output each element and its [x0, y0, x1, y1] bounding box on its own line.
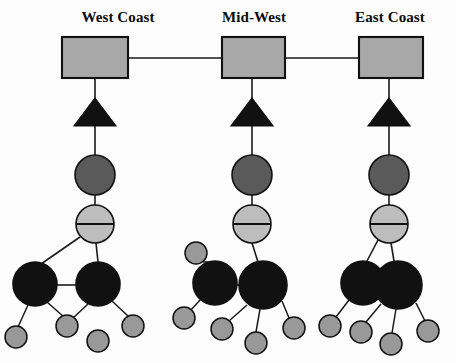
server-node-east-coast-2[interactable]: [374, 261, 422, 309]
workstation-node-mid-west-5[interactable]: [283, 317, 305, 339]
link-hub-to-server-mid-1: [252, 243, 258, 262]
site-group-west-coast[interactable]: West Coast: [5, 9, 155, 352]
link-server-to-workstation-west-1: [18, 305, 28, 327]
link-server-to-workstation-west-4: [112, 301, 129, 317]
workstation-node-east-coast-1[interactable]: [319, 315, 341, 337]
site-box-east-coast[interactable]: [359, 37, 423, 78]
server-node-west-coast-1[interactable]: [13, 262, 57, 306]
site-box-mid-west[interactable]: [222, 37, 285, 78]
router-node-east-coast[interactable]: [369, 155, 409, 195]
link-hub-to-server-east-1: [367, 240, 378, 261]
link-server-to-workstation-east-1: [336, 300, 349, 317]
workstation-node-west-coast-4[interactable]: [122, 315, 144, 337]
link-server-to-workstation-east-3: [392, 309, 396, 333]
link-server-to-workstation-mid-5: [282, 301, 289, 318]
site-label-east-coast: East Coast: [355, 9, 425, 25]
firewall-icon-east-coast[interactable]: [368, 98, 410, 126]
network-diagram-canvas: West Coast Mi: [0, 0, 456, 363]
workstation-node-east-coast-3[interactable]: [380, 333, 402, 355]
link-server-to-workstation-east-4: [416, 303, 425, 321]
link-server-to-workstation-west-3: [72, 304, 88, 319]
router-node-mid-west[interactable]: [232, 155, 272, 195]
workstation-node-mid-west-4[interactable]: [245, 332, 267, 354]
site-label-west-coast: West Coast: [81, 9, 154, 25]
workstation-node-east-coast-4[interactable]: [417, 320, 439, 342]
link-server-to-workstation-west-2: [47, 302, 64, 317]
site-label-mid-west: Mid-West: [222, 9, 286, 25]
link-server-to-workstation-mid-3: [229, 305, 247, 321]
firewall-icon-mid-west[interactable]: [231, 98, 273, 126]
server-node-mid-west-2[interactable]: [239, 261, 287, 309]
router-node-west-coast[interactable]: [75, 155, 115, 195]
workstation-node-mid-west-1[interactable]: [185, 242, 207, 264]
link-hub-to-server-east-2: [391, 243, 394, 261]
workstation-node-mid-west-3[interactable]: [211, 318, 233, 340]
server-node-mid-west-1[interactable]: [193, 261, 237, 305]
workstation-node-mid-west-2[interactable]: [173, 307, 195, 329]
firewall-icon-west-coast[interactable]: [74, 98, 116, 126]
link-server-to-workstation-east-2: [366, 304, 381, 322]
link-hub-to-server-west-2: [96, 243, 98, 262]
workstation-node-west-coast-3[interactable]: [87, 330, 109, 352]
site-group-east-coast[interactable]: East Coast: [319, 9, 439, 355]
workstation-node-west-coast-2[interactable]: [56, 315, 78, 337]
workstation-node-east-coast-2[interactable]: [350, 321, 372, 343]
link-hub-to-server-west-1: [41, 237, 80, 264]
site-group-mid-west[interactable]: Mid-West: [173, 9, 305, 354]
link-server-to-workstation-mid-4: [256, 309, 260, 332]
workstation-node-west-coast-1[interactable]: [5, 326, 27, 348]
network-topology-diagram: West Coast Mi: [0, 0, 456, 363]
server-node-west-coast-2[interactable]: [76, 262, 120, 306]
site-box-west-coast[interactable]: [62, 37, 128, 78]
